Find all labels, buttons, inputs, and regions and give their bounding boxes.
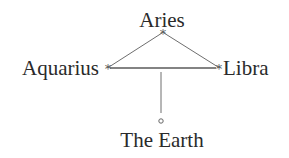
- libra-star-icon: *: [216, 61, 223, 76]
- label-aries: Aries: [139, 8, 185, 32]
- earth-circle-icon: [159, 119, 163, 123]
- edge-aries-aquarius: [109, 33, 162, 67]
- label-libra: Libra: [223, 56, 269, 80]
- zodiac-diagram: * * * Aries Aquarius Libra The Earth: [0, 0, 289, 158]
- label-the-earth: The Earth: [120, 128, 204, 152]
- edge-aries-libra: [164, 33, 218, 67]
- aquarius-star-icon: *: [105, 61, 112, 76]
- label-aquarius: Aquarius: [22, 56, 99, 80]
